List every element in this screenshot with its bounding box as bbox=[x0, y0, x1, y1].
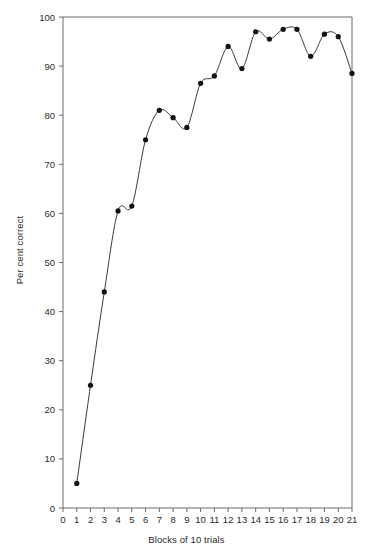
x-tick-label: 9 bbox=[184, 514, 189, 525]
y-axis-tick-labels: 0102030405060708090100 bbox=[39, 12, 55, 514]
x-tick-label: 4 bbox=[115, 514, 120, 525]
y-tick-label: 80 bbox=[44, 110, 55, 121]
data-point bbox=[322, 32, 327, 37]
data-point bbox=[239, 66, 244, 71]
x-tick-label: 20 bbox=[333, 514, 344, 525]
x-tick-label: 17 bbox=[292, 514, 303, 525]
data-point bbox=[198, 81, 203, 86]
x-tick-label: 11 bbox=[209, 514, 219, 525]
x-tick-label: 19 bbox=[319, 514, 330, 525]
x-tick-label: 0 bbox=[60, 514, 65, 525]
chart-plot-area: 0102030405060708090100 01234567891011121… bbox=[0, 0, 373, 560]
data-point bbox=[115, 208, 120, 213]
data-point bbox=[226, 44, 231, 49]
data-point bbox=[102, 289, 107, 294]
x-tick-label: 10 bbox=[195, 514, 206, 525]
learning-curve-figure: Per cent correct 0102030405060708090100 … bbox=[0, 0, 373, 560]
y-tick-label: 30 bbox=[44, 355, 55, 366]
data-point bbox=[157, 108, 162, 113]
data-point bbox=[184, 125, 189, 130]
y-tick-label: 20 bbox=[44, 404, 55, 415]
data-point bbox=[267, 37, 272, 42]
x-tick-label: 12 bbox=[223, 514, 234, 525]
data-series-line bbox=[77, 27, 352, 484]
x-axis-ticks bbox=[63, 508, 352, 512]
x-tick-label: 13 bbox=[237, 514, 248, 525]
data-point bbox=[281, 27, 286, 32]
y-tick-label: 0 bbox=[50, 503, 55, 514]
y-tick-label: 60 bbox=[44, 208, 55, 219]
y-tick-label: 50 bbox=[44, 257, 55, 268]
data-point bbox=[336, 34, 341, 39]
x-axis-tick-labels: 0123456789101112131415161718192021 bbox=[60, 514, 357, 525]
data-point bbox=[308, 54, 313, 59]
x-tick-label: 3 bbox=[102, 514, 107, 525]
y-tick-label: 10 bbox=[44, 453, 55, 464]
plot-frame bbox=[63, 17, 352, 508]
y-axis-ticks bbox=[59, 17, 63, 508]
data-point bbox=[212, 73, 217, 78]
y-axis-title: Per cent correct bbox=[14, 100, 28, 400]
x-tick-label: 6 bbox=[143, 514, 148, 525]
x-tick-label: 18 bbox=[305, 514, 316, 525]
data-point bbox=[74, 481, 79, 486]
x-tick-label: 1 bbox=[74, 514, 79, 525]
y-tick-label: 70 bbox=[44, 159, 55, 170]
x-tick-label: 8 bbox=[170, 514, 175, 525]
x-tick-label: 21 bbox=[347, 514, 358, 525]
data-point bbox=[129, 203, 134, 208]
data-point bbox=[253, 29, 258, 34]
data-point bbox=[88, 383, 93, 388]
y-tick-label: 100 bbox=[39, 12, 55, 23]
x-tick-label: 5 bbox=[129, 514, 134, 525]
y-tick-label: 40 bbox=[44, 306, 55, 317]
data-series-points bbox=[74, 27, 354, 486]
x-tick-label: 16 bbox=[278, 514, 289, 525]
x-tick-label: 14 bbox=[250, 514, 261, 525]
x-axis-title: Blocks of 10 trials bbox=[0, 534, 373, 545]
data-point bbox=[143, 137, 148, 142]
data-point bbox=[171, 115, 176, 120]
x-tick-label: 2 bbox=[88, 514, 93, 525]
series-path bbox=[77, 27, 352, 484]
data-point bbox=[294, 27, 299, 32]
x-tick-label: 7 bbox=[157, 514, 162, 525]
y-tick-label: 90 bbox=[44, 61, 55, 72]
data-point bbox=[349, 71, 354, 76]
x-tick-label: 15 bbox=[264, 514, 275, 525]
